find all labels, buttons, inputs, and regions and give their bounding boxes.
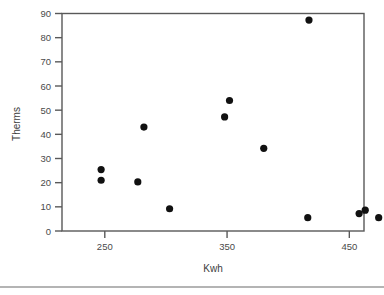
x-tick-label: 250 [97,241,113,252]
data-point [362,207,369,214]
y-tick-label: 90 [40,8,51,19]
plot-frame [62,14,364,232]
chart-canvas: 0102030405060708090 250350450 Kwh Therms [0,0,384,295]
x-axis-tick-labels: 250350450 [97,241,357,252]
y-tick-label: 40 [40,129,51,140]
data-point [98,177,105,184]
y-tick-label: 80 [40,32,51,43]
y-tick-label: 0 [46,226,51,237]
data-point [98,166,105,173]
y-axis-ticks [55,14,62,232]
data-point [260,145,267,152]
data-point [356,210,363,217]
data-point [140,123,147,130]
scatter-plot-figure: 0102030405060708090 250350450 Kwh Therms [0,0,384,295]
data-point [221,113,228,120]
data-point [305,16,312,23]
data-point [226,97,233,104]
x-tick-label: 450 [341,241,357,252]
y-tick-label: 50 [40,105,51,116]
y-tick-label: 70 [40,56,51,67]
data-point [375,214,382,221]
y-tick-label: 10 [40,201,51,212]
y-axis-title: Therms [11,107,22,141]
y-tick-label: 20 [40,177,51,188]
x-axis-ticks [105,231,350,238]
data-point [134,178,141,185]
y-tick-label: 60 [40,81,51,92]
data-point [166,205,173,212]
data-point [304,214,311,221]
y-tick-label: 30 [40,153,51,164]
x-axis-title: Kwh [203,263,222,274]
x-tick-label: 350 [219,241,235,252]
data-points-group [98,16,383,221]
y-axis-tick-labels: 0102030405060708090 [40,8,51,237]
